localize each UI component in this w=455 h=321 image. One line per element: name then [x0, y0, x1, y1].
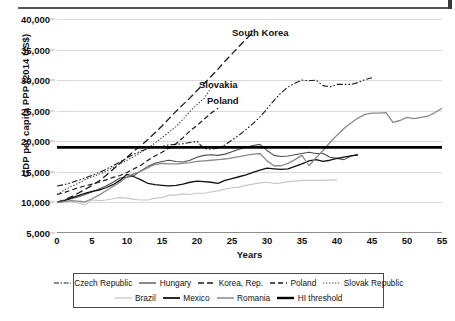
x-tick-label-25: 25	[227, 235, 238, 246]
series-line-brazil	[57, 180, 337, 205]
y-tick-label-10000: 10,000	[21, 197, 50, 208]
y-tick-mark-30000	[50, 80, 55, 81]
plot-area	[57, 19, 442, 233]
legend-swatch-slovak-republic	[323, 279, 340, 287]
series-line-romania	[57, 108, 442, 202]
x-tick-label-35: 35	[297, 235, 308, 246]
legend-label-poland: Poland	[290, 279, 316, 287]
annotation-south-korea: South Korea	[232, 27, 288, 38]
x-tick-label-20: 20	[192, 235, 203, 246]
y-tick-mark-35000	[50, 49, 55, 50]
y-tick-mark-40000	[50, 19, 55, 20]
y-tick-mark-5000	[50, 233, 55, 234]
y-tick-label-20000: 20,000	[21, 136, 50, 147]
legend-item-hungary[interactable]: Hungary	[139, 279, 191, 287]
legend-swatch-romania	[217, 294, 234, 302]
legend-item-mexico[interactable]: Mexico	[163, 294, 210, 302]
y-axis-tick-labels: 5,00010,00015,00020,00025,00030,00035,00…	[0, 19, 55, 233]
x-tick-label-45: 45	[367, 235, 378, 246]
x-tick-label-30: 30	[262, 235, 273, 246]
legend-swatch-brazil	[115, 294, 132, 302]
legend-item-hi-threshold[interactable]: HI threshold	[277, 294, 342, 302]
legend-item-brazil[interactable]: Brazil	[115, 294, 156, 302]
series-lines	[57, 19, 442, 233]
annotation-poland: Poland	[207, 95, 239, 106]
legend-item-romania[interactable]: Romania	[217, 294, 271, 302]
legend-swatch-mexico	[163, 294, 180, 302]
legend-swatch-hi-threshold	[277, 294, 294, 302]
legend-item-slovak-republic[interactable]: Slovak Republic	[323, 279, 403, 287]
legend-label-czech-republic: Czech Republic	[74, 279, 132, 287]
y-tick-mark-10000	[50, 202, 55, 203]
legend-label-hi-threshold: HI threshold	[298, 294, 343, 302]
x-tick-label-50: 50	[402, 235, 413, 246]
y-tick-label-5000: 5,000	[26, 228, 50, 239]
legend-row-1: Czech RepublicHungaryKorea, Rep.PolandSl…	[54, 276, 404, 291]
x-tick-label-5: 5	[89, 235, 94, 246]
gdp-line-chart-figure: GDP per capita PPP (2014 US$) 5,00010,00…	[0, 0, 455, 321]
y-tick-mark-25000	[50, 110, 55, 111]
y-tick-label-15000: 15,000	[21, 166, 50, 177]
legend-swatch-hungary	[139, 279, 156, 287]
chart-legend: Czech RepublicHungaryKorea, Rep.PolandSl…	[73, 273, 384, 308]
y-tick-mark-15000	[50, 171, 55, 172]
x-tick-label-55: 55	[437, 235, 448, 246]
legend-item-poland[interactable]: Poland	[270, 279, 316, 287]
series-line-czech-republic	[57, 78, 372, 186]
series-line-slovak-republic	[57, 88, 211, 194]
y-tick-label-35000: 35,000	[21, 44, 50, 55]
x-tick-label-10: 10	[122, 235, 133, 246]
legend-label-hungary: Hungary	[160, 279, 191, 287]
legend-label-romania: Romania	[237, 294, 270, 302]
x-tick-label-0: 0	[54, 235, 59, 246]
legend-swatch-poland	[270, 279, 287, 287]
legend-swatch-czech-republic	[54, 279, 71, 287]
y-tick-mark-20000	[50, 141, 55, 142]
annotation-slovakia: Slovakia	[199, 79, 238, 90]
x-axis-tick-labels: 0510152025303540455055	[57, 235, 442, 249]
legend-row-2: BrazilMexicoRomaniaHI threshold	[115, 291, 343, 306]
y-tick-label-25000: 25,000	[21, 105, 50, 116]
legend-item-czech-republic[interactable]: Czech Republic	[54, 279, 133, 287]
legend-label-mexico: Mexico	[183, 294, 209, 302]
x-tick-label-15: 15	[157, 235, 168, 246]
legend-item-korea-rep[interactable]: Korea, Rep.	[198, 279, 263, 287]
x-tick-label-40: 40	[332, 235, 343, 246]
y-tick-label-40000: 40,000	[21, 14, 50, 25]
legend-label-korea-rep: Korea, Rep.	[219, 279, 263, 287]
y-tick-label-30000: 30,000	[21, 75, 50, 86]
legend-label-slovak-republic: Slovak Republic	[344, 279, 404, 287]
legend-label-brazil: Brazil	[135, 294, 156, 302]
x-axis-title: Years	[57, 249, 442, 260]
legend-swatch-korea-rep	[198, 279, 215, 287]
